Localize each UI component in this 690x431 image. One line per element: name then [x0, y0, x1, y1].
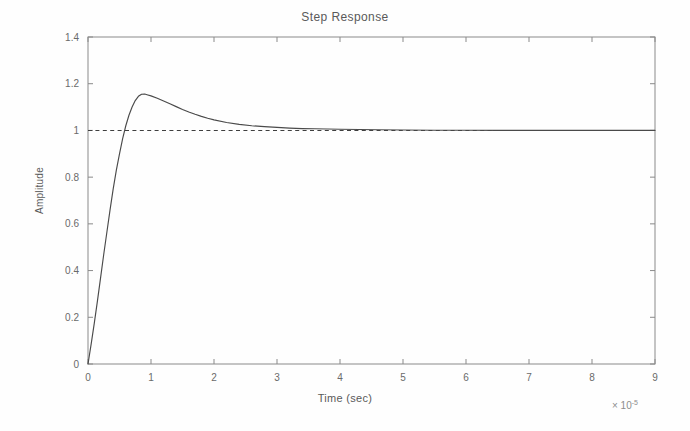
svg-text:8: 8: [589, 372, 595, 383]
x-axis-tick-labels: 0123456789: [85, 372, 658, 383]
svg-text:2: 2: [211, 372, 217, 383]
svg-text:1: 1: [73, 125, 79, 136]
figure-canvas: Step Response Amplitude 0123456789 00.20…: [0, 0, 690, 431]
svg-text:0: 0: [73, 359, 79, 370]
svg-text:5: 5: [400, 372, 406, 383]
x-axis-label: Time (sec): [0, 392, 690, 404]
plot-area: 0123456789 00.20.40.60.811.21.4: [0, 0, 690, 431]
svg-text:0.8: 0.8: [65, 172, 79, 183]
svg-text:0.6: 0.6: [65, 218, 79, 229]
multiplier-exponent: -5: [632, 399, 638, 406]
x-axis-ticks: [88, 37, 655, 364]
svg-text:1: 1: [148, 372, 154, 383]
svg-text:1.4: 1.4: [65, 32, 79, 43]
y-axis-tick-labels: 00.20.40.60.811.21.4: [65, 32, 79, 370]
axes-box: [88, 37, 655, 364]
svg-text:1.2: 1.2: [65, 78, 79, 89]
multiplier-prefix: × 10: [612, 400, 632, 411]
svg-text:6: 6: [463, 372, 469, 383]
svg-text:3: 3: [274, 372, 280, 383]
svg-text:9: 9: [652, 372, 658, 383]
svg-text:0.2: 0.2: [65, 312, 79, 323]
svg-text:7: 7: [526, 372, 532, 383]
x-axis-exponent-multiplier: × 10-5: [612, 399, 638, 411]
svg-text:4: 4: [337, 372, 343, 383]
y-axis-ticks: [88, 37, 655, 364]
svg-text:0: 0: [85, 372, 91, 383]
svg-text:0.4: 0.4: [65, 265, 79, 276]
step-response-curve: [88, 94, 655, 364]
